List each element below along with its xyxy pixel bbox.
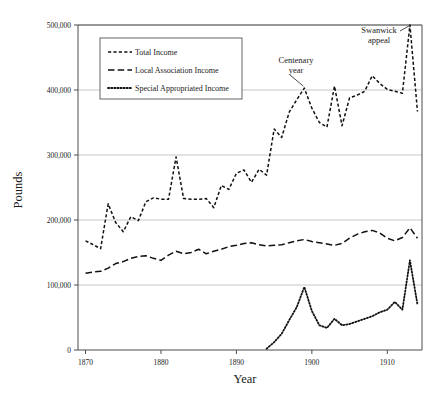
x-tick-label: 1900 xyxy=(304,358,319,367)
y-tick-label: 100,000 xyxy=(47,281,72,290)
x-tick-label: 1870 xyxy=(78,358,93,367)
y-tick-label: 400,000 xyxy=(47,86,72,95)
annotation-label: Swanwick xyxy=(361,25,397,35)
chart-legend: Total IncomeLocal Association IncomeSpec… xyxy=(100,38,242,99)
legend-label-1: Local Association Income xyxy=(135,66,219,75)
y-tick-label: 0 xyxy=(67,346,71,355)
x-tick-label: 1910 xyxy=(380,358,395,367)
x-tick-label: 1890 xyxy=(229,358,244,367)
x-tick-label: 1880 xyxy=(153,358,168,367)
annotation-label: Centenary xyxy=(279,55,315,65)
y-axis-title: Pounds xyxy=(11,171,25,208)
y-tick-label: 300,000 xyxy=(47,151,72,160)
annotation-label: year xyxy=(289,65,304,75)
legend-label-0: Total Income xyxy=(135,48,178,57)
legend-label-2: Special Appropriated Income xyxy=(135,84,229,93)
y-tick-label: 500,000 xyxy=(47,21,72,30)
y-tick-label: 200,000 xyxy=(47,216,72,225)
x-axis-title: Year xyxy=(233,372,257,386)
line-chart: 0100,000200,000300,000400,000500,000 187… xyxy=(0,0,446,394)
annotation-label: appeal xyxy=(368,35,391,45)
chart-figure: 0100,000200,000300,000400,000500,000 187… xyxy=(0,0,446,394)
